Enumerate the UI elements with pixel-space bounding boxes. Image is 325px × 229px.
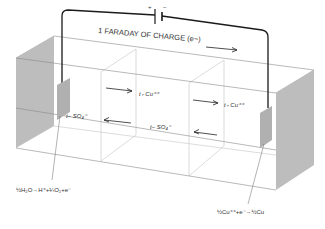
anode-reaction: ½H₂O→H⁺+¼O₂+e⁻ [16,187,71,193]
charge-label: 1 FARADAY OF CHARGE (e−) [98,26,202,44]
cation-arrow-left-icon [106,88,132,93]
anion-label-left: t− SO₄⁼ [66,113,88,119]
cation-arrow-right-icon [193,100,218,105]
anion-label-middle: t− SO₄⁼ [150,124,172,130]
cation-label-right: t₊ Cu⁺⁺ [224,102,245,108]
battery-plus-label: + [148,4,152,10]
battery-minus-label: − [163,4,167,10]
anion-arrow-left-icon [104,118,131,124]
battery-icon [155,9,162,24]
external-wire [62,10,268,108]
cathode-leader-line [248,144,264,204]
box-front-edges [16,58,276,190]
cathode-electrode [260,106,272,148]
cathode-reaction: ½Cu⁺⁺+e⁻→½Cu [217,209,264,215]
left-end-wall [16,36,54,148]
anion-arrow-middle-icon [194,130,217,136]
compartment-dividers [54,49,314,176]
electrolysis-cell-diagram: + − 1 FARADAY OF CHARGE (e−) t₊ Cu⁺⁺ t₊ … [0,0,325,229]
cation-label-left: t₊ Cu⁺⁺ [139,91,160,97]
right-end-wall [276,70,314,190]
electron-flow-arrow-icon [206,47,237,52]
